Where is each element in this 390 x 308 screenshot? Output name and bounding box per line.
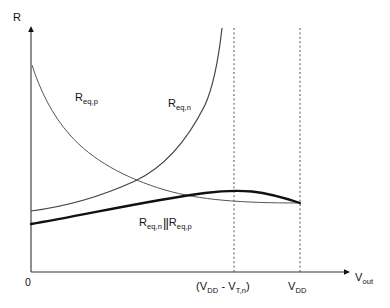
- x-axis-label-sub: out: [362, 277, 373, 286]
- curve-label-req-n: Req,n: [168, 94, 191, 111]
- reqp-base: R: [75, 91, 83, 103]
- parallel-left-base: R: [139, 216, 147, 228]
- tick-open-paren: (V: [196, 280, 207, 292]
- parallel-right-sub: eq,p: [177, 222, 192, 231]
- curve-req-n: [31, 28, 222, 211]
- parallel-bars-icon: ||: [162, 216, 169, 229]
- tick-sub-tn: T,n: [236, 286, 246, 295]
- parallel-right-base: R: [169, 216, 177, 228]
- tick-close-paren: ): [246, 280, 250, 292]
- figure-canvas: [0, 0, 390, 308]
- curve-req-p: [32, 65, 300, 203]
- x-axis-label: Vout: [355, 268, 373, 285]
- reqn-sub: eq,n: [176, 103, 191, 112]
- x-tick-label-vdd-minus-vtn: (VDD - VT,n): [196, 277, 250, 294]
- reqn-base: R: [168, 97, 176, 109]
- tick-sub-dd: DD: [207, 286, 218, 295]
- curve-label-req-parallel: Req,n||Req,p: [139, 213, 192, 230]
- parallel-left-sub: eq,n: [147, 222, 162, 231]
- y-axis-label: R: [13, 12, 21, 23]
- curve-label-req-p: Req,p: [75, 88, 98, 105]
- x-tick-label-vdd: VDD: [288, 277, 306, 294]
- tick-vdd-sub: DD: [295, 286, 306, 295]
- reqp-sub: eq,p: [83, 97, 98, 106]
- tick-minus-v: - V: [218, 280, 236, 292]
- origin-tick-label: 0: [25, 277, 31, 288]
- resistance-vs-vout-figure: R Vout 0 (VDD - VT,n) VDD Req,p Req,n Re…: [0, 0, 390, 308]
